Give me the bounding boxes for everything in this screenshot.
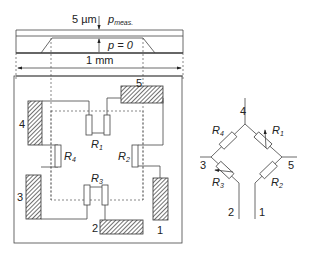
pad-1-label: 1 [157,224,163,236]
cavity-outline [41,38,155,53]
node-5-label: 5 [288,159,294,171]
bridge-r3-label: R3 [212,176,224,189]
r3-label: R3 [91,172,103,185]
resistor-r1-left [86,115,92,135]
pressure-zero-label: p = 0 [107,39,134,51]
bridge-r1 [254,132,272,149]
resistor-r1-right [104,115,110,135]
resistor-r2 [132,145,138,167]
pad-4 [28,101,42,145]
node-4-label: 4 [240,105,246,117]
diagram-canvas: 5 µm pmeas. p = 0 1 mm 5 4 3 2 1 [0,0,312,254]
bridge-r1-label: R1 [272,124,284,137]
resistor-r3-right [102,185,108,205]
bridge-r2-label: R2 [271,176,283,189]
pad-3 [26,175,41,219]
r4-label: R4 [64,150,76,163]
thickness-label: 5 µm [72,13,97,25]
pad-1 [153,178,168,220]
r1-label: R1 [91,138,103,151]
r2-label: R2 [118,150,130,163]
wheatstone-bridge: 4 3 5 2 1 R4 R1 R3 R2 [200,98,297,219]
pressure-meas-label: pmeas. [107,13,133,26]
chip-layout: 5 4 3 2 1 R1 R4 R2 [14,76,182,243]
width-label: 1 mm [86,54,114,66]
resistor-r3-left [84,185,90,205]
node-3-label: 3 [200,159,206,171]
pad-5-label: 5 [136,77,142,89]
node-1-label: 1 [259,206,265,218]
pad-3-label: 3 [17,191,23,203]
pad-2-label: 2 [92,222,98,234]
bridge-r4-label: R4 [212,124,224,137]
node-2-label: 2 [228,206,234,218]
resistor-r4 [55,145,61,167]
pressure-sensor-diagram: 5 µm pmeas. p = 0 1 mm 5 4 3 2 1 [0,0,312,254]
pad-2 [100,220,143,234]
pad-4-label: 4 [19,118,25,130]
